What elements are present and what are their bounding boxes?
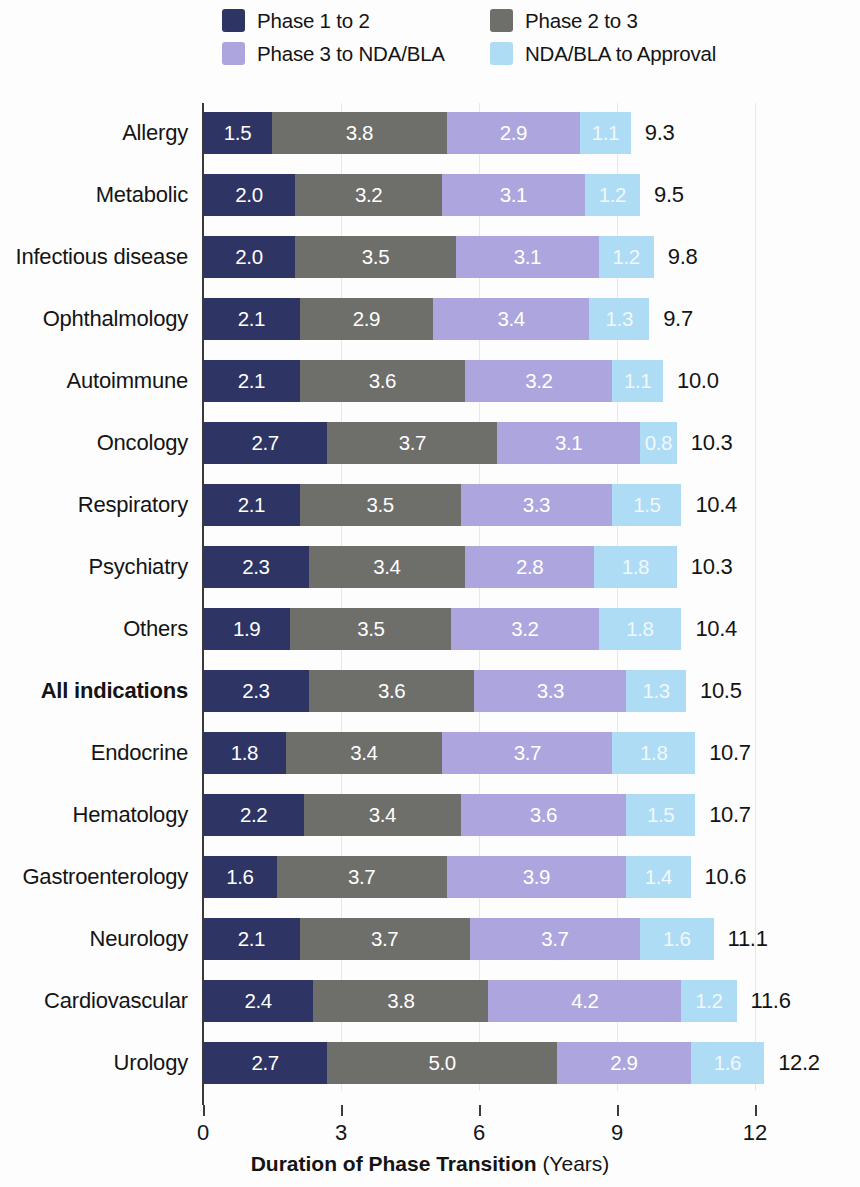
bar-segment-phase1to2[interactable]: 2.3	[203, 546, 309, 588]
bar-segment-phase1to2[interactable]: 2.0	[203, 174, 295, 216]
bar-segment-phase1to2[interactable]: 1.6	[203, 856, 277, 898]
stacked-bar[interactable]: 2.13.53.31.5	[203, 484, 681, 526]
stacked-bar[interactable]: 2.73.73.10.8	[203, 422, 677, 464]
stacked-bar[interactable]: 2.12.93.41.3	[203, 298, 649, 340]
bar-segment-phase2to3[interactable]: 3.7	[277, 856, 447, 898]
bar-segment-NDAtoApproval[interactable]: 1.2	[585, 174, 640, 216]
stacked-bar[interactable]: 1.63.73.91.4	[203, 856, 691, 898]
stacked-bar[interactable]: 2.13.73.71.6	[203, 918, 714, 960]
bar-segment-NDAtoApproval[interactable]: 1.6	[691, 1042, 765, 1084]
stacked-bar[interactable]: 1.83.43.71.8	[203, 732, 695, 774]
bar-segment-phase1to2[interactable]: 1.9	[203, 608, 290, 650]
bar-segment-value: 3.2	[525, 369, 552, 393]
bar-row[interactable]: Urology2.75.02.91.612.2	[0, 1042, 860, 1084]
bar-total-label: 11.6	[751, 980, 791, 1022]
bar-row[interactable]: Others1.93.53.21.810.4	[0, 608, 860, 650]
bar-segment-phase1to2[interactable]: 2.1	[203, 360, 300, 402]
stacked-bar[interactable]: 1.53.82.91.1	[203, 112, 631, 154]
bar-segment-phase1to2[interactable]: 2.0	[203, 236, 295, 278]
bar-segment-phase3toNDA[interactable]: 3.2	[451, 608, 598, 650]
bar-row[interactable]: All indications2.33.63.31.310.5	[0, 670, 860, 712]
bar-segment-NDAtoApproval[interactable]: 1.8	[594, 546, 677, 588]
bar-segment-phase3toNDA[interactable]: 3.1	[456, 236, 599, 278]
bar-segment-phase3toNDA[interactable]: 3.7	[470, 918, 640, 960]
bar-segment-phase3toNDA[interactable]: 2.8	[465, 546, 594, 588]
stacked-bar[interactable]: 2.03.23.11.2	[203, 174, 640, 216]
bar-segment-phase2to3[interactable]: 3.5	[300, 484, 461, 526]
bar-segment-phase3toNDA[interactable]: 4.2	[488, 980, 681, 1022]
bar-segment-NDAtoApproval[interactable]: 1.3	[626, 670, 686, 712]
bar-segment-value: 3.5	[357, 617, 384, 641]
bar-row[interactable]: Ophthalmology2.12.93.41.39.7	[0, 298, 860, 340]
bar-row[interactable]: Autoimmune2.13.63.21.110.0	[0, 360, 860, 402]
bar-segment-NDAtoApproval[interactable]: 1.2	[681, 980, 736, 1022]
bar-segment-phase2to3[interactable]: 2.9	[300, 298, 433, 340]
bar-segment-NDAtoApproval[interactable]: 1.6	[640, 918, 714, 960]
bar-row[interactable]: Neurology2.13.73.71.611.1	[0, 918, 860, 960]
bar-segment-NDAtoApproval[interactable]: 1.1	[612, 360, 663, 402]
bar-segment-phase2to3[interactable]: 5.0	[327, 1042, 557, 1084]
bar-segment-phase3toNDA[interactable]: 3.2	[465, 360, 612, 402]
bar-segment-phase3toNDA[interactable]: 3.6	[461, 794, 627, 836]
bar-row[interactable]: Psychiatry2.33.42.81.810.3	[0, 546, 860, 588]
bar-segment-phase2to3[interactable]: 3.4	[304, 794, 460, 836]
bar-segment-phase2to3[interactable]: 3.7	[300, 918, 470, 960]
bar-segment-phase2to3[interactable]: 3.7	[327, 422, 497, 464]
bar-segment-phase3toNDA[interactable]: 3.1	[442, 174, 585, 216]
bar-segment-phase2to3[interactable]: 3.5	[290, 608, 451, 650]
bar-segment-NDAtoApproval[interactable]: 1.1	[580, 112, 631, 154]
bar-row[interactable]: Oncology2.73.73.10.810.3	[0, 422, 860, 464]
bar-segment-phase1to2[interactable]: 1.8	[203, 732, 286, 774]
bar-row[interactable]: Allergy1.53.82.91.19.3	[0, 112, 860, 154]
bar-segment-phase2to3[interactable]: 3.6	[300, 360, 466, 402]
stacked-bar[interactable]: 2.43.84.21.2	[203, 980, 737, 1022]
stacked-bar[interactable]: 2.13.63.21.1	[203, 360, 663, 402]
bar-segment-NDAtoApproval[interactable]: 1.8	[599, 608, 682, 650]
bar-segment-phase2to3[interactable]: 3.2	[295, 174, 442, 216]
bar-segment-phase3toNDA[interactable]: 3.1	[497, 422, 640, 464]
bar-segment-NDAtoApproval[interactable]: 0.8	[640, 422, 677, 464]
bar-row[interactable]: Metabolic2.03.23.11.29.5	[0, 174, 860, 216]
bar-segment-phase2to3[interactable]: 3.4	[286, 732, 442, 774]
bar-segment-phase3toNDA[interactable]: 2.9	[447, 112, 580, 154]
bar-segment-phase3toNDA[interactable]: 3.7	[442, 732, 612, 774]
bar-segment-NDAtoApproval[interactable]: 1.3	[589, 298, 649, 340]
stacked-bar[interactable]: 2.23.43.61.5	[203, 794, 695, 836]
bar-segment-phase1to2[interactable]: 2.4	[203, 980, 313, 1022]
bar-row[interactable]: Infectious disease2.03.53.11.29.8	[0, 236, 860, 278]
bar-segment-phase2to3[interactable]: 3.4	[309, 546, 465, 588]
bar-segment-phase3toNDA[interactable]: 3.3	[474, 670, 626, 712]
bar-row[interactable]: Gastroenterology1.63.73.91.410.6	[0, 856, 860, 898]
bar-row[interactable]: Endocrine1.83.43.71.810.7	[0, 732, 860, 774]
bar-segment-phase3toNDA[interactable]: 2.9	[557, 1042, 690, 1084]
bar-segment-phase2to3[interactable]: 3.8	[272, 112, 447, 154]
bar-segment-phase1to2[interactable]: 2.1	[203, 484, 300, 526]
stacked-bar[interactable]: 2.33.42.81.8	[203, 546, 677, 588]
bar-segment-NDAtoApproval[interactable]: 1.2	[599, 236, 654, 278]
bar-row[interactable]: Respiratory2.13.53.31.510.4	[0, 484, 860, 526]
bar-segment-phase1to2[interactable]: 2.7	[203, 422, 327, 464]
bar-segment-phase3toNDA[interactable]: 3.9	[447, 856, 626, 898]
bar-segment-value: 3.3	[523, 493, 550, 517]
bar-segment-phase2to3[interactable]: 3.8	[313, 980, 488, 1022]
bar-segment-NDAtoApproval[interactable]: 1.4	[626, 856, 690, 898]
bar-segment-phase3toNDA[interactable]: 3.4	[433, 298, 589, 340]
bar-segment-phase1to2[interactable]: 2.7	[203, 1042, 327, 1084]
bar-segment-phase1to2[interactable]: 2.2	[203, 794, 304, 836]
bar-segment-phase2to3[interactable]: 3.6	[309, 670, 475, 712]
bar-segment-NDAtoApproval[interactable]: 1.5	[626, 794, 695, 836]
bar-segment-phase2to3[interactable]: 3.5	[295, 236, 456, 278]
bar-row[interactable]: Hematology2.23.43.61.510.7	[0, 794, 860, 836]
stacked-bar[interactable]: 2.75.02.91.6	[203, 1042, 764, 1084]
bar-segment-phase1to2[interactable]: 2.1	[203, 298, 300, 340]
bar-segment-phase1to2[interactable]: 2.3	[203, 670, 309, 712]
bar-segment-phase3toNDA[interactable]: 3.3	[461, 484, 613, 526]
stacked-bar[interactable]: 2.33.63.31.3	[203, 670, 686, 712]
bar-segment-NDAtoApproval[interactable]: 1.5	[612, 484, 681, 526]
bar-segment-phase1to2[interactable]: 2.1	[203, 918, 300, 960]
bar-row[interactable]: Cardiovascular2.43.84.21.211.6	[0, 980, 860, 1022]
stacked-bar[interactable]: 2.03.53.11.2	[203, 236, 654, 278]
stacked-bar[interactable]: 1.93.53.21.8	[203, 608, 681, 650]
bar-segment-NDAtoApproval[interactable]: 1.8	[612, 732, 695, 774]
bar-segment-phase1to2[interactable]: 1.5	[203, 112, 272, 154]
